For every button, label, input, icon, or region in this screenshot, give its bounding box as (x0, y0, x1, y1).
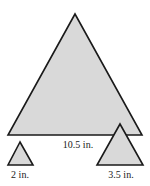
similar-triangles-figure: 10.5 in. 2 in. 3.5 in. (0, 0, 150, 186)
triangles-svg (0, 0, 150, 186)
small-triangle-base-label: 2 in. (11, 170, 29, 180)
medium-triangle-base-label: 3.5 in. (108, 170, 133, 180)
small-triangle (8, 142, 33, 165)
large-triangle-base-label: 10.5 in. (63, 140, 93, 150)
large-triangle (8, 14, 142, 135)
